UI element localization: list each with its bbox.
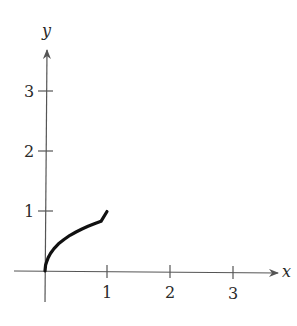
x-tick-label-1: 1 bbox=[102, 283, 112, 302]
y-axis-label: y bbox=[41, 21, 52, 40]
x-axis bbox=[14, 271, 278, 273]
y-tick-label-1: 1 bbox=[24, 202, 34, 221]
x-axis-label: x bbox=[282, 262, 291, 281]
x-tick-label-2: 2 bbox=[165, 283, 175, 302]
y-tick-label-2: 2 bbox=[24, 142, 34, 161]
y-tick-label-3: 3 bbox=[24, 82, 34, 101]
sqrt-curve bbox=[45, 155, 293, 271]
sqrt-function-graph: 1 2 3 1 2 3 x y bbox=[0, 0, 297, 326]
sqrt-curve-line bbox=[45, 212, 107, 272]
x-tick-label-3: 3 bbox=[228, 284, 238, 303]
